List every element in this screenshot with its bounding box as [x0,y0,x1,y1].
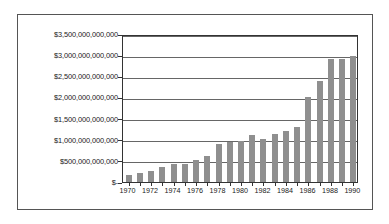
x-tick-label: 1974 [165,187,181,195]
bar [171,164,177,182]
x-tick-mark [162,182,163,186]
x-tick-mark [230,182,231,186]
x-tick-label: 1976 [187,187,203,195]
bar [305,97,311,182]
x-tick-label: 1970 [120,187,136,195]
bar [328,59,334,182]
x-tick-mark [297,182,298,186]
x-tick-mark [185,182,186,186]
bar [294,127,300,182]
y-tick-label: $3,500,000,000,000 [54,31,118,39]
bar-slot [190,36,201,182]
bar-slot [179,36,190,182]
bar [216,144,222,182]
x-tick-label: 1990 [344,187,360,195]
bar [260,139,266,182]
bar-slot [213,36,224,182]
bar [350,56,356,182]
bar-slot [348,36,359,182]
bar [126,175,132,182]
bar-slot [168,36,179,182]
x-tick-label: 1984 [277,187,293,195]
x-tick-label: 1986 [299,187,315,195]
bar-slot [235,36,246,182]
x-tick-label: 1978 [210,187,226,195]
y-tick-label: $3,000,000,000,000 [54,52,118,60]
plot-area [122,35,358,183]
bar-slot [134,36,145,182]
y-tick-label: $500,000,000,000 [60,158,118,166]
bar [193,160,199,182]
bar [272,134,278,182]
bar-slot [269,36,280,182]
bar [249,135,255,182]
bar-slot [280,36,291,182]
bar-slot [145,36,156,182]
y-tick-label: $2,500,000,000,000 [54,73,118,81]
bar-slot [303,36,314,182]
bar-slot [247,36,258,182]
x-tick-mark [252,182,253,186]
bar-slot [292,36,303,182]
bar [182,164,188,182]
x-tick-mark [140,182,141,186]
chart-figure: $-$500,000,000,000$1,000,000,000,000$1,5… [17,14,373,210]
bar-slot [337,36,348,182]
bar-slot [202,36,213,182]
bar [339,59,345,182]
bar [283,131,289,182]
bar-slot [224,36,235,182]
x-tick-mark [207,182,208,186]
x-tick-label: 1988 [322,187,338,195]
bar-slot [325,36,336,182]
x-tick-mark [275,182,276,186]
x-tick-mark [342,182,343,186]
bar [148,171,154,182]
x-tick-mark [320,182,321,186]
bar [317,81,323,182]
y-axis-labels: $-$500,000,000,000$1,000,000,000,000$1,5… [18,35,118,183]
bar [238,141,244,182]
bar [204,156,210,182]
x-tick-label: 1980 [232,187,248,195]
bar-slot [123,36,134,182]
y-tick-label: $1,500,000,000,000 [54,116,118,124]
bar-slot [157,36,168,182]
x-tick-label: 1972 [142,187,158,195]
bar-slot [258,36,269,182]
bar-slot [314,36,325,182]
bar-series [123,36,357,182]
bar [227,142,233,182]
bar [159,167,165,182]
y-tick-label: $1,000,000,000,000 [54,137,118,145]
x-tick-label: 1982 [254,187,270,195]
bar [137,173,143,182]
y-tick-label: $2,000,000,000,000 [54,94,118,102]
